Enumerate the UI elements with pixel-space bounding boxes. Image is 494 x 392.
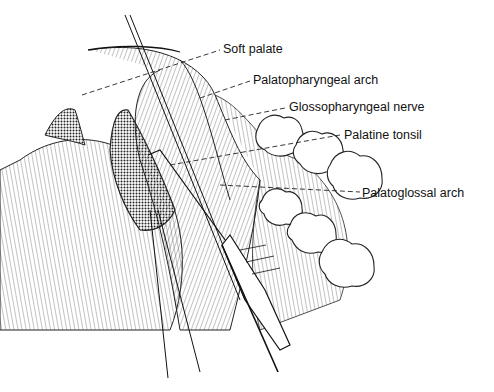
label-glossopharyngeal-nerve: Glossopharyngeal nerve — [289, 100, 425, 114]
left-tonsil-shape — [45, 109, 85, 145]
label-palatopharyngeal-arch: Palatopharyngeal arch — [253, 73, 378, 87]
anatomy-illustration: Soft palate Palatopharyngeal arch Glosso… — [0, 0, 494, 392]
label-palatine-tonsil: Palatine tonsil — [344, 128, 422, 142]
label-palatoglossal-arch: Palatoglossal arch — [362, 186, 464, 200]
label-soft-palate: Soft palate — [223, 42, 283, 56]
